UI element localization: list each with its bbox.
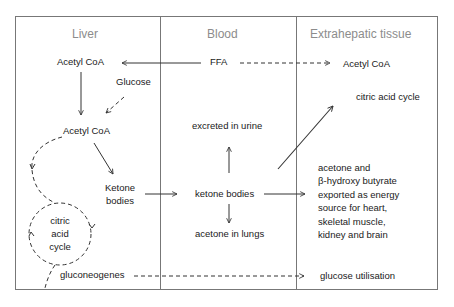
liver-ketone-line-2: bodies: [100, 195, 140, 208]
tissue-glucose-utilisation: glucose utilisation: [320, 270, 395, 283]
arrow-ketone-to-tissue-citric: [278, 106, 333, 169]
arrow-acetyl-coa-to-ketone: [94, 143, 113, 174]
column-header-tissue: Extrahepatic tissue: [310, 27, 411, 41]
cycle-to-gluconeogenes: [45, 265, 55, 288]
export-line-2: β-hydroxy butyrate: [318, 174, 399, 187]
tissue-export-description: acetone and β-hydroxy butyrate exported …: [318, 161, 399, 241]
blood-excreted-in-urine: excreted in urine: [192, 120, 262, 133]
tissue-citric-acid-cycle: citric acid cycle: [356, 91, 420, 104]
tissue-acetyl-coa: Acetyl CoA: [343, 58, 390, 71]
export-line-3: exported as energy: [318, 188, 399, 201]
export-line-4: source for heart,: [318, 201, 399, 214]
blood-ketone-bodies: ketone bodies: [195, 188, 254, 201]
liver-glucose: Glucose: [116, 76, 151, 89]
liver-ketone-line-1: Ketone: [100, 182, 140, 195]
export-line-1: acetone and: [318, 161, 399, 174]
arrowhead-curve: [30, 164, 35, 169]
arrow-acetyl-coa-to-citric-cycle: [32, 137, 62, 203]
liver-acetyl-coa-top: Acetyl CoA: [57, 56, 104, 69]
column-header-blood: Blood: [207, 27, 238, 41]
liver-acetyl-coa-mid: Acetyl CoA: [63, 125, 110, 138]
export-line-5: skeletal muscle,: [318, 215, 399, 228]
liver-citric-acid-cycle: citric acid cycle: [42, 214, 78, 253]
export-line-6: kidney and brain: [318, 228, 399, 241]
column-header-liver: Liver: [72, 27, 98, 41]
cycle-arrowhead-right: [89, 224, 95, 228]
arrow-glucose-to-acetyl-coa: [106, 97, 124, 113]
ketone-metabolism-diagram: [0, 0, 454, 307]
citric-line-1: citric: [42, 214, 78, 227]
citric-line-2: acid: [42, 227, 78, 240]
citric-line-3: cycle: [42, 240, 78, 253]
blood-ffa: FFA: [210, 56, 227, 69]
cycle-arrowhead-left: [29, 232, 34, 236]
blood-acetone-in-lungs: acetone in lungs: [195, 228, 264, 241]
liver-ketone-bodies: Ketone bodies: [100, 182, 140, 207]
liver-gluconeogenes: gluconeogenes: [60, 269, 124, 282]
